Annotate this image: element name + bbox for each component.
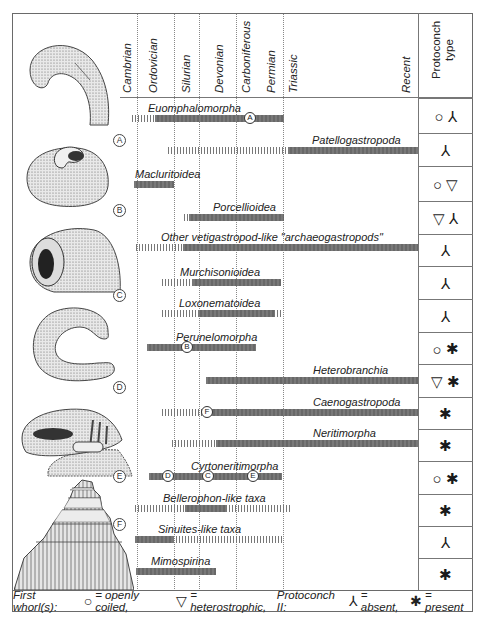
taxon-label: Murchisonioidea (180, 266, 260, 278)
shell-marker-c: C (202, 470, 214, 482)
present-icon: ✱ (439, 437, 452, 455)
range-bar-confirmed (288, 147, 418, 154)
protoconch-cell: ○✱ (418, 461, 473, 495)
range-bar-inferred (168, 147, 288, 154)
cambrian-underline (120, 97, 130, 98)
range-bar-inferred (162, 310, 198, 317)
range-bar-inferred (162, 279, 193, 286)
shell-tag-c: C (113, 289, 126, 302)
range-bar-confirmed (189, 214, 284, 221)
shell-tag-f: F (113, 518, 126, 531)
shell-b-illustration (22, 138, 112, 208)
protoconch-cell: ○✱ (418, 332, 473, 365)
range-bar-inferred (274, 310, 283, 317)
range-bar-confirmed (211, 409, 418, 416)
taxon-label: Loxonematoidea (179, 297, 260, 309)
range-bar-confirmed (135, 536, 173, 543)
taxon-label: Euomphalomorpha (148, 102, 241, 114)
period-label: Carboniferous (240, 21, 252, 93)
shell-marker-f: F (201, 406, 213, 418)
range-bar-inferred (173, 536, 282, 543)
protoconch-cell: ○⅄ (418, 98, 473, 134)
legend-footer: First whorl(s): ○ = openly coiled, ▽ = h… (12, 590, 473, 612)
present-icon: ✱ (446, 340, 459, 358)
absent-icon: ⅄ (449, 210, 458, 228)
shell-c-illustration (24, 222, 124, 297)
taxon-label: Macluritoidea (135, 168, 200, 180)
protoconch-cell: ○▽ (418, 166, 473, 202)
taxon-label: Bellerophon-like taxa (163, 492, 266, 504)
taxon-label: Other vetigastropod-like "archaeogastrop… (161, 231, 383, 243)
absent-icon: ⅄ (441, 142, 450, 160)
present-icon: ✱ (446, 470, 459, 488)
range-bar-inferred (226, 505, 290, 512)
shell-e-illustration (18, 398, 133, 478)
protoconch-cell: ✱ (418, 397, 473, 430)
heterostrophic-icon: ▽ (433, 210, 445, 228)
period-label: Cambrian (121, 43, 133, 93)
present-icon: ✱ (410, 593, 422, 609)
shell-marker-e: E (247, 470, 259, 482)
period-label: Permian (265, 50, 277, 93)
taxon-label: Caenogastropoda (313, 396, 400, 408)
range-bar-confirmed (136, 568, 216, 575)
period-label: Recent (400, 57, 412, 93)
shell-f-illustration (14, 478, 134, 590)
range-bar-inferred (172, 440, 216, 447)
shell-tag-b: B (113, 204, 126, 217)
heterostrophic-icon: ▽ (431, 373, 443, 391)
range-bar-inferred (136, 244, 183, 251)
absent-icon: ⅄ (441, 308, 450, 326)
present-icon: ✱ (439, 502, 452, 520)
open-coil-icon: ○ (84, 593, 92, 609)
taxon-label: Mimospirina (151, 555, 210, 567)
heterostrophic-icon: ▽ (176, 593, 187, 609)
range-bar-confirmed (134, 181, 174, 188)
boundary-line (283, 14, 284, 589)
protoconch-header: Protoconch type (430, 10, 456, 90)
shell-marker-d: D (162, 470, 174, 482)
open-coil-icon: ○ (432, 341, 441, 358)
heterostrophic-icon: ▽ (446, 176, 458, 194)
protoconch-cell: ✱ (418, 429, 473, 462)
open-coil-icon: ○ (434, 108, 443, 125)
taxon-label: Porcellioidea (213, 201, 276, 213)
protoconch-cell: ✱ (418, 558, 473, 591)
protoconch-cell: ⅄ (418, 299, 473, 333)
period-label: Ordovician (147, 38, 159, 93)
absent-icon: ⅄ (441, 534, 450, 552)
present-icon: ✱ (439, 566, 452, 584)
taxon-label: Patellogastropoda (312, 134, 401, 146)
range-bar-confirmed (206, 377, 418, 384)
legend-absent-text: = absent, (361, 589, 407, 613)
range-bar-confirmed (155, 115, 284, 122)
shell-a-illustration (20, 35, 110, 130)
range-bar-inferred (132, 115, 155, 122)
range-bar-confirmed (198, 310, 274, 317)
absent-icon: ⅄ (448, 108, 457, 126)
legend-present-text: = present (425, 589, 472, 613)
shell-tag-e: E (113, 470, 126, 483)
open-coil-icon: ○ (433, 176, 442, 193)
shell-d-illustration (28, 303, 118, 388)
period-label: Triassic (287, 54, 299, 93)
range-bar-confirmed (185, 505, 226, 512)
protoconch-cell: ⅄ (418, 133, 473, 167)
taxon-label: Heterobranchia (313, 364, 388, 376)
range-bar-inferred (162, 409, 202, 416)
protoconch-cell: ✱ (418, 494, 473, 527)
shell-tag-a: A (113, 134, 126, 147)
range-bar-inferred (135, 505, 185, 512)
present-icon: ✱ (439, 405, 452, 423)
absent-icon: ⅄ (349, 593, 358, 609)
range-bar-confirmed (147, 344, 256, 351)
period-label: Devonian (213, 44, 225, 93)
legend-prefix: First whorl(s): (13, 589, 81, 613)
range-bar-confirmed (216, 440, 418, 447)
legend-p2-label: Protoconch II: (277, 589, 346, 613)
legend-hetero-text: = heterostrophic, (190, 589, 274, 613)
open-coil-icon: ○ (432, 470, 441, 487)
shell-tag-d: D (113, 381, 126, 394)
protoconch-cell: ▽⅄ (418, 201, 473, 235)
shell-marker-a: A (244, 112, 256, 124)
